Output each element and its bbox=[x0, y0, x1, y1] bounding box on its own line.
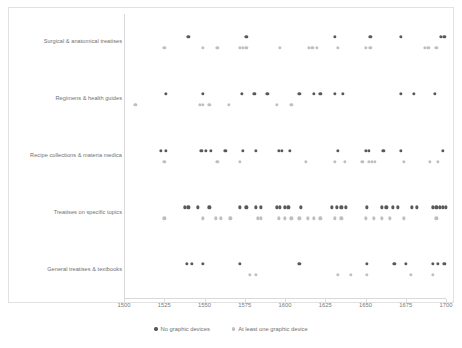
data-point bbox=[238, 160, 241, 163]
data-point bbox=[253, 92, 256, 95]
data-point bbox=[399, 149, 402, 152]
chart-container: Surgical & anatomical treatisesRegimens … bbox=[0, 0, 462, 348]
data-point bbox=[227, 103, 230, 106]
data-point bbox=[365, 262, 368, 265]
data-point bbox=[312, 92, 315, 95]
x-tick-label: 1550 bbox=[198, 302, 211, 308]
data-point bbox=[343, 160, 346, 163]
data-point bbox=[431, 273, 434, 276]
data-point bbox=[204, 149, 207, 152]
data-point bbox=[428, 160, 431, 163]
category-axis-labels: Surgical & anatomical treatisesRegimens … bbox=[4, 14, 122, 298]
data-point bbox=[164, 149, 167, 152]
data-point bbox=[312, 217, 315, 220]
data-point bbox=[435, 217, 438, 220]
x-tick-label: 1600 bbox=[279, 302, 292, 308]
data-point bbox=[229, 217, 232, 220]
legend-entry-no-graphic-devices[interactable]: No graphic devices bbox=[154, 326, 210, 332]
data-point bbox=[415, 206, 418, 209]
data-point bbox=[298, 217, 301, 220]
data-point bbox=[441, 149, 444, 152]
data-point bbox=[399, 35, 402, 38]
data-point bbox=[214, 217, 217, 220]
data-point bbox=[254, 273, 257, 276]
data-point bbox=[209, 149, 212, 152]
data-point bbox=[361, 160, 364, 163]
data-point bbox=[306, 217, 309, 220]
data-point bbox=[427, 46, 430, 49]
data-point bbox=[333, 35, 336, 38]
data-point bbox=[201, 217, 204, 220]
data-point bbox=[311, 46, 314, 49]
data-point bbox=[164, 92, 167, 95]
data-point bbox=[163, 46, 166, 49]
scatter-plot-area bbox=[124, 14, 446, 298]
x-tick-label: 1575 bbox=[238, 302, 251, 308]
x-tick-label: 1675 bbox=[399, 302, 412, 308]
data-point bbox=[372, 217, 375, 220]
data-point bbox=[241, 149, 244, 152]
x-tick-label: 1500 bbox=[118, 302, 131, 308]
data-point bbox=[333, 92, 336, 95]
data-point bbox=[245, 35, 248, 38]
data-point bbox=[436, 262, 439, 265]
data-point bbox=[409, 273, 412, 276]
data-point bbox=[316, 46, 319, 49]
data-point bbox=[336, 46, 339, 49]
data-point bbox=[299, 206, 302, 209]
data-point bbox=[319, 217, 322, 220]
legend-swatch-icon bbox=[154, 327, 157, 330]
category-label: Treatises on specific topics bbox=[6, 209, 122, 216]
data-point bbox=[240, 92, 243, 95]
x-tick-label: 1700 bbox=[440, 302, 453, 308]
data-point bbox=[254, 206, 257, 209]
legend-swatch-icon bbox=[232, 327, 235, 330]
data-point bbox=[340, 206, 343, 209]
data-point bbox=[304, 160, 307, 163]
data-point bbox=[298, 92, 301, 95]
data-point bbox=[433, 92, 436, 95]
data-point bbox=[345, 206, 348, 209]
legend-entry-at-least-one-graphic-device[interactable]: At least one graphic device bbox=[232, 326, 308, 332]
data-point bbox=[245, 206, 248, 209]
data-point bbox=[290, 103, 293, 106]
data-point bbox=[288, 149, 291, 152]
data-point bbox=[382, 149, 385, 152]
data-point bbox=[385, 206, 388, 209]
data-point bbox=[402, 160, 405, 163]
data-point bbox=[399, 92, 402, 95]
x-tick-label: 1650 bbox=[359, 302, 372, 308]
data-point bbox=[279, 206, 282, 209]
data-point bbox=[369, 46, 372, 49]
data-point bbox=[336, 273, 339, 276]
data-point bbox=[201, 103, 204, 106]
data-point bbox=[163, 217, 166, 220]
data-point bbox=[187, 35, 190, 38]
data-point bbox=[412, 92, 415, 95]
x-axis-tick-labels: 150015251550157516001625165016751700 bbox=[124, 302, 446, 314]
data-point bbox=[369, 35, 372, 38]
data-point bbox=[367, 149, 370, 152]
data-point bbox=[365, 206, 368, 209]
data-point bbox=[208, 103, 211, 106]
data-point bbox=[254, 149, 257, 152]
legend-label: At least one graphic device bbox=[238, 326, 308, 332]
data-point bbox=[349, 273, 352, 276]
data-point bbox=[333, 217, 336, 220]
data-point bbox=[364, 217, 367, 220]
category-label: General treatises & textbooks bbox=[6, 266, 122, 273]
data-point bbox=[280, 149, 283, 152]
data-point bbox=[216, 160, 219, 163]
data-point bbox=[290, 217, 293, 220]
category-label: Recipe collections & materia medica bbox=[6, 152, 122, 159]
data-point bbox=[190, 262, 193, 265]
data-point bbox=[436, 160, 439, 163]
category-label: Surgical & anatomical treatises bbox=[6, 38, 122, 45]
data-point bbox=[402, 217, 405, 220]
data-point bbox=[404, 262, 407, 265]
data-point bbox=[248, 273, 251, 276]
data-point bbox=[185, 262, 188, 265]
data-point bbox=[216, 46, 219, 49]
data-point bbox=[201, 262, 204, 265]
data-point bbox=[287, 206, 290, 209]
